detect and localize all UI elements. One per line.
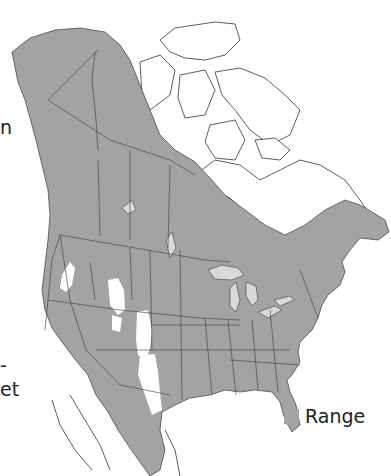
cropped-text-fragment: - [0, 356, 7, 375]
cropped-text-fragment: et [0, 380, 19, 399]
cropped-text-fragment: n [0, 118, 12, 137]
legend-swatch-range [284, 409, 299, 424]
map-legend: Range [284, 405, 365, 427]
legend-label-range: Range [305, 405, 365, 427]
